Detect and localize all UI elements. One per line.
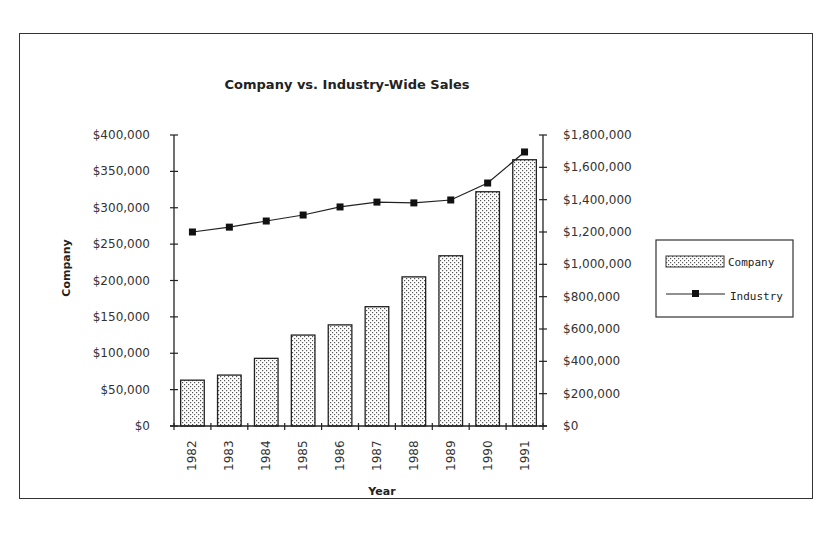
legend-company-swatch bbox=[666, 256, 724, 267]
company-bars bbox=[181, 160, 537, 426]
left-tick-label: $350,000 bbox=[93, 164, 150, 178]
industry-marker bbox=[373, 199, 380, 206]
x-tick-label: 1986 bbox=[333, 440, 347, 471]
bar-company bbox=[254, 358, 278, 426]
x-tick-label: 1991 bbox=[518, 440, 532, 471]
right-tick-label: $0 bbox=[563, 419, 578, 433]
industry-marker bbox=[226, 224, 233, 231]
right-tick-label: $1,400,000 bbox=[563, 193, 632, 207]
x-tick-label: 1987 bbox=[370, 440, 384, 471]
industry-marker bbox=[300, 212, 307, 219]
right-tick-label: $600,000 bbox=[563, 322, 620, 336]
left-tick-label: $0 bbox=[135, 419, 150, 433]
combo-chart: Company vs. Industry-Wide Sales $0$50,00… bbox=[0, 0, 834, 550]
right-tick-label: $1,000,000 bbox=[563, 257, 632, 271]
chart-title: Company vs. Industry-Wide Sales bbox=[225, 77, 470, 92]
x-tick-label: 1984 bbox=[259, 440, 273, 471]
right-tick-label: $400,000 bbox=[563, 354, 620, 368]
industry-marker bbox=[521, 148, 528, 155]
bar-company bbox=[476, 192, 500, 426]
industry-marker bbox=[189, 229, 196, 236]
x-axis-label: Year bbox=[367, 485, 396, 498]
industry-marker bbox=[447, 196, 454, 203]
bar-company bbox=[513, 160, 537, 426]
x-tick-label: 1985 bbox=[296, 440, 310, 471]
left-tick-label: $150,000 bbox=[93, 310, 150, 324]
industry-marker bbox=[337, 203, 344, 210]
legend-company-label: Company bbox=[728, 256, 775, 269]
x-tick-label: 1989 bbox=[444, 440, 458, 471]
legend-industry-marker bbox=[692, 290, 699, 297]
industry-marker bbox=[410, 199, 417, 206]
right-tick-label: $800,000 bbox=[563, 290, 620, 304]
bar-company bbox=[181, 380, 205, 426]
bar-company bbox=[291, 335, 315, 426]
legend-industry-label: Industry bbox=[730, 290, 783, 303]
left-tick-label: $200,000 bbox=[93, 274, 150, 288]
left-y-axis: $0$50,000$100,000$150,000$200,000$250,00… bbox=[93, 128, 178, 433]
left-tick-label: $50,000 bbox=[100, 383, 150, 397]
right-tick-label: $1,800,000 bbox=[563, 128, 632, 142]
bar-company bbox=[402, 277, 426, 426]
x-tick-label: 1990 bbox=[481, 440, 495, 471]
legend: Company Industry bbox=[656, 240, 793, 317]
x-tick-label: 1983 bbox=[222, 440, 236, 471]
right-tick-label: $1,200,000 bbox=[563, 225, 632, 239]
x-tick-label: 1988 bbox=[407, 440, 421, 471]
bar-company bbox=[328, 325, 352, 426]
y-axis-label: Company bbox=[60, 239, 73, 296]
industry-marker bbox=[484, 180, 491, 187]
x-tick-label: 1982 bbox=[185, 440, 199, 471]
right-y-axis: $0$200,000$400,000$600,000$800,000$1,000… bbox=[539, 128, 632, 433]
left-tick-label: $250,000 bbox=[93, 237, 150, 251]
bar-company bbox=[218, 375, 242, 426]
x-axis: 1982198319841985198619871988198919901991 bbox=[170, 423, 547, 471]
right-tick-label: $200,000 bbox=[563, 387, 620, 401]
left-tick-label: $100,000 bbox=[93, 346, 150, 360]
bar-company bbox=[439, 256, 463, 426]
left-tick-label: $400,000 bbox=[93, 128, 150, 142]
bar-company bbox=[365, 307, 389, 426]
right-tick-label: $1,600,000 bbox=[563, 160, 632, 174]
industry-marker bbox=[263, 218, 270, 225]
left-tick-label: $300,000 bbox=[93, 201, 150, 215]
